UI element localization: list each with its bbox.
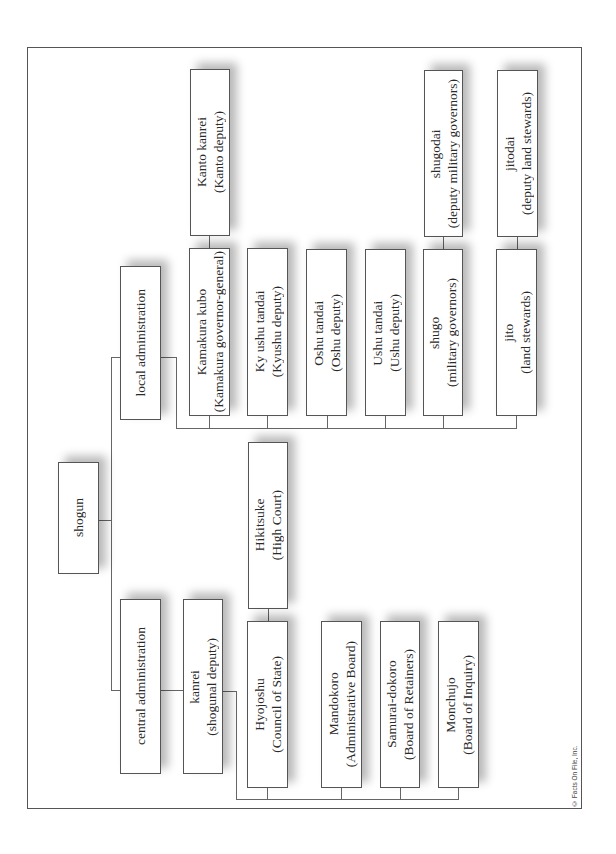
connector-jitodai-jito — [517, 237, 518, 249]
node-hikitsuke: Hikitsuke(High Court) — [248, 442, 288, 609]
node-jito: jito(land stewards) — [496, 249, 537, 416]
node-label: Hyojoshu — [251, 656, 268, 753]
node-label: Hikitsuke — [251, 490, 268, 560]
connector-kanrei-out — [223, 691, 236, 692]
node-kanrei: kanrei(shogunal deputy) — [183, 599, 223, 774]
connector-local-down — [176, 357, 177, 429]
node-kamakura-kubo: Kamakura kubo(Kamakura governor-general) — [189, 248, 230, 416]
node-label: local administration — [132, 289, 149, 397]
node-label: Ushu tandai — [369, 294, 386, 372]
node-label: Monchujo — [442, 655, 459, 755]
node-label: central administration — [132, 627, 149, 745]
node-sublabel: (Kyushu deputy) — [268, 286, 285, 377]
node-monchujo: Monchujo(Board of Inquiry) — [438, 621, 479, 788]
connector-central-kanrei — [161, 690, 183, 691]
connector-ushu — [385, 416, 386, 428]
copyright-credit: © Facts On File, Inc. — [571, 745, 581, 807]
node-shugodai: shugodai(deputy military governors) — [424, 70, 463, 237]
node-local-administration: local administration — [120, 266, 161, 420]
node-label: Oshu tandai — [310, 294, 327, 372]
connector-spine-central — [111, 690, 120, 691]
connector-kamakura — [209, 416, 210, 428]
node-sublabel: (military governors) — [443, 278, 460, 387]
node-sublabel: (Administrative Board) — [342, 641, 359, 767]
node-sublabel: (Board of Retainers) — [400, 649, 417, 760]
connector-hikitsuke-hyojoshu — [268, 609, 269, 621]
node-sublabel: (deputy military governors) — [444, 79, 461, 228]
node-kyushu-tandai: Ky ushu tandai(Kyushu deputy) — [247, 248, 288, 416]
node-label: shugo — [426, 278, 443, 387]
connector-local-out — [161, 357, 176, 358]
node-sublabel: (Board of Inquiry) — [459, 655, 476, 755]
connector-shugodai-shugo — [443, 237, 444, 249]
connector-kanto-kamakura — [209, 236, 210, 248]
connector-kyushu — [267, 416, 268, 428]
node-jitodai: jitodai(deputy land stewards) — [497, 70, 538, 237]
node-label: shogun — [70, 498, 87, 537]
node-samurai-dokoro: Samurai-dokoro(Board of Retainers) — [380, 621, 420, 788]
node-sublabel: (Ushu deputy) — [386, 294, 403, 372]
node-sublabel: (High Court) — [268, 490, 285, 560]
connector-oshu — [327, 416, 328, 428]
connector-kanrei-down — [236, 691, 237, 800]
connector-shogun-spine — [99, 520, 111, 521]
connector-mandokoro — [341, 788, 342, 799]
node-label: Kamakura kubo — [193, 251, 210, 412]
node-sublabel: (deputy land stewards) — [518, 92, 535, 215]
node-kanto-kanrei: Kanto kanrei(Kanto deputy) — [190, 69, 230, 236]
node-sublabel: (Kamakura governor-general) — [210, 251, 227, 412]
node-sublabel: (Oshu deputy) — [327, 294, 344, 372]
node-central-administration: central administration — [120, 599, 161, 774]
node-shogun: shogun — [58, 462, 99, 574]
connector-spine — [111, 357, 112, 691]
connector-monchujo — [458, 788, 459, 799]
node-label: Ky ushu tandai — [251, 286, 268, 377]
connector-local-bus — [176, 428, 517, 429]
node-shugo: shugo(military governors) — [423, 249, 463, 416]
connector-jito — [516, 416, 517, 428]
node-sublabel: (Kanto deputy) — [210, 111, 227, 193]
connector-spine-local — [111, 357, 120, 358]
node-label: shugodai — [427, 79, 444, 228]
node-hyojoshu: Hyojoshu(Council of State) — [247, 621, 288, 788]
node-label: jitodai — [501, 92, 518, 215]
node-label: Samurai-dokoro — [383, 649, 400, 760]
connector-shugo — [443, 416, 444, 428]
node-label: kanrei — [186, 638, 203, 736]
node-oshu-tandai: Oshu tandai(Oshu deputy) — [306, 249, 347, 416]
node-sublabel: (land stewards) — [517, 291, 534, 374]
node-label: Kanto kanrei — [193, 111, 210, 193]
node-sublabel: (shogunal deputy) — [203, 638, 220, 736]
node-mandokoro: Mandokoro(Administrative Board) — [321, 621, 362, 788]
node-ushu-tandai: Ushu tandai(Ushu deputy) — [365, 249, 406, 416]
connector-central-bus — [236, 799, 459, 800]
node-sublabel: (Council of State) — [268, 656, 285, 753]
connector-hyojoshu — [267, 788, 268, 799]
node-label: jito — [500, 291, 517, 374]
connector-samurai — [400, 788, 401, 799]
node-label: Mandokoro — [325, 641, 342, 767]
